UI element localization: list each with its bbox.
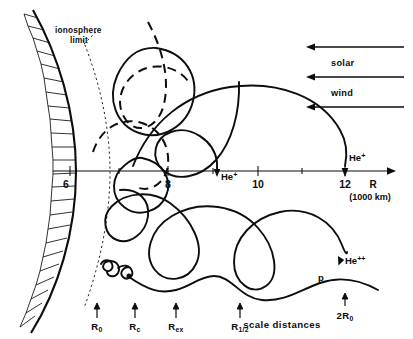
r-axis-tick-label-12: 12 bbox=[339, 178, 351, 190]
r-axis-unit-label: (1000 km) bbox=[349, 192, 391, 202]
ionosphere-label-line1: ionosphere bbox=[55, 26, 102, 35]
solar-wind-label-line2: wind bbox=[330, 88, 353, 98]
scale-distances-caption: scale distances bbox=[243, 319, 321, 330]
ionosphere-label-line2: limit bbox=[70, 36, 88, 45]
r-axis-name-label: R bbox=[369, 179, 377, 190]
r-axis-tick-label-6: 6 bbox=[63, 178, 69, 190]
solar-wind-label-line1: solar bbox=[331, 58, 355, 68]
r-axis-tick-label-8: 8 bbox=[165, 178, 171, 190]
r-axis-tick-label-10: 10 bbox=[252, 178, 264, 190]
figure-canvas: ionosphere limit He+ He+ He++ bbox=[0, 0, 413, 339]
proton-label: p bbox=[318, 272, 324, 283]
particle-trajectory-figure: ionosphere limit He+ He+ He++ bbox=[0, 0, 413, 339]
